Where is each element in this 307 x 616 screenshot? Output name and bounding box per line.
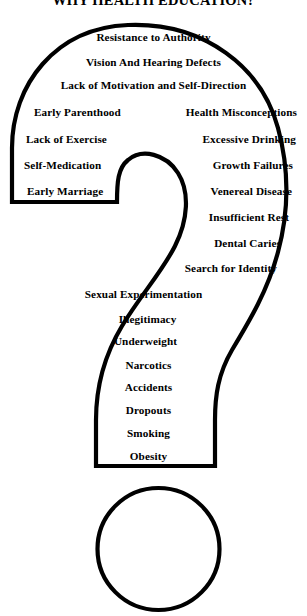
label-sexual-experimentation: Sexual Experimentation xyxy=(0,288,297,300)
label-vision-and-hearing-defects: Vision And Hearing Defects xyxy=(0,56,307,68)
label-smoking: Smoking xyxy=(0,427,302,439)
label-early-marriage: Early Marriage xyxy=(27,185,103,197)
label-search-for-identity: Search for Identity xyxy=(185,262,277,274)
label-illegitimacy: Illegitimacy xyxy=(0,313,301,325)
label-obesity: Obesity xyxy=(0,450,302,462)
label-lack-of-motivation: Lack of Motivation and Self-Direction xyxy=(0,79,307,91)
label-self-medication: Self-Medication xyxy=(24,159,101,171)
poster-canvas: WHY HEALTH EDUCATION? Resistance to Auth… xyxy=(0,0,307,616)
label-dental-caries: Dental Caries xyxy=(214,237,281,249)
label-growth-failures: Growth Failures xyxy=(213,159,293,171)
label-early-parenthood: Early Parenthood xyxy=(34,106,121,118)
label-dropouts: Dropouts xyxy=(0,404,302,416)
label-excessive-drinking: Excessive Drinking xyxy=(203,133,296,145)
label-insufficient-rest: Insufficient Rest xyxy=(209,211,289,223)
label-resistance-to-authority: Resistance to Authority xyxy=(0,31,307,43)
label-venereal-disease: Venereal Disease xyxy=(211,185,292,197)
label-accidents: Accidents xyxy=(0,381,302,393)
label-lack-of-exercise: Lack of Exercise xyxy=(26,133,107,145)
label-narcotics: Narcotics xyxy=(0,359,302,371)
label-health-misconceptions: Health Misconceptions xyxy=(186,106,297,118)
label-underweight: Underweight xyxy=(0,335,299,347)
label-layer: Resistance to Authority Vision And Heari… xyxy=(0,0,307,616)
